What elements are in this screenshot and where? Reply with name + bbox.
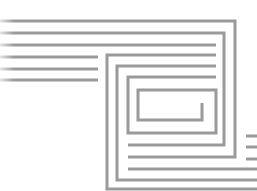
maze-line-frame-3 — [128, 77, 216, 133]
left-edge-fade — [0, 0, 14, 191]
maze-diagram — [0, 0, 257, 191]
